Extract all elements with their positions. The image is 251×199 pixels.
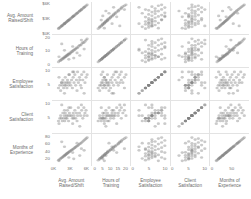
scatter-point	[99, 120, 102, 123]
scatter-point	[57, 159, 60, 162]
scatter-point	[75, 120, 78, 123]
splom-cell-employee_satisfaction-vs-employee_satisfaction[interactable]	[131, 68, 170, 100]
scatter-point	[63, 49, 66, 52]
scatter-point	[190, 57, 193, 60]
splom-cell-months_of_experience-vs-avg_amount_raised_shift[interactable]	[52, 134, 91, 166]
scatter-point	[119, 71, 122, 74]
splom-cell-months_of_experience-vs-employee_satisfaction[interactable]	[131, 134, 170, 166]
splom-cell-hours_of_training-vs-months_of_experience[interactable]	[210, 35, 249, 67]
scatter-point	[184, 87, 187, 90]
splom-cell-avg_amount_raised_shift-vs-client_satisfaction[interactable]	[171, 2, 210, 34]
scatter-point	[234, 106, 237, 109]
scatter-point	[217, 117, 220, 120]
scatter-point	[112, 73, 115, 76]
splom-cell-client_satisfaction-vs-months_of_experience[interactable]	[210, 101, 249, 133]
x-tick-label: 5	[187, 167, 189, 171]
scatter-point	[150, 5, 153, 8]
scatter-point	[144, 8, 147, 11]
splom-cell-avg_amount_raised_shift-vs-hours_of_training[interactable]	[92, 2, 131, 34]
x-tick-label: 0	[93, 167, 95, 171]
splom-cell-hours_of_training-vs-hours_of_training[interactable]	[92, 35, 131, 67]
column-label-line: Raised/Shift	[52, 183, 91, 188]
scatter-point	[138, 22, 141, 25]
scatter-point	[228, 114, 231, 117]
row-label-line: Satisfaction	[0, 117, 33, 122]
scatter-point	[154, 152, 157, 155]
scatter-point	[72, 71, 75, 74]
scatter-point	[237, 109, 240, 112]
scatter-point	[187, 152, 190, 155]
scatter-point	[160, 146, 163, 149]
scatter-point	[187, 140, 190, 143]
scatter-point	[180, 71, 183, 74]
scatter-point	[101, 71, 104, 74]
scatter-point	[154, 7, 157, 10]
row-label-hours_of_training: Hours ofTraining	[0, 46, 33, 57]
splom-cell-employee_satisfaction-vs-client_satisfaction[interactable]	[171, 68, 210, 100]
scatter-point	[190, 149, 193, 152]
scatter-point	[217, 157, 220, 160]
scatter-point	[228, 149, 231, 152]
splom-cell-employee_satisfaction-vs-months_of_experience[interactable]	[210, 68, 249, 100]
scatter-point	[157, 55, 160, 58]
scatter-point	[74, 84, 77, 87]
scatter-point	[105, 112, 108, 115]
scatter-point	[224, 109, 227, 112]
splom-cell-client_satisfaction-vs-avg_amount_raised_shift[interactable]	[52, 101, 91, 133]
scatter-point	[228, 48, 231, 51]
scatter-point	[104, 125, 107, 128]
splom-cell-employee_satisfaction-vs-avg_amount_raised_shift[interactable]	[52, 68, 91, 100]
row-label-months_of_experience: Months ofExperience	[0, 145, 33, 156]
scatter-point	[225, 122, 228, 125]
scatter-point	[124, 4, 127, 7]
scatter-point	[180, 16, 183, 19]
scatter-point	[82, 71, 85, 74]
scatter-point	[215, 122, 218, 125]
scatter-point	[217, 57, 220, 60]
scatter-point	[60, 104, 63, 107]
scatter-point	[190, 44, 193, 47]
scatter-point	[144, 54, 147, 57]
scatter-point	[104, 109, 107, 112]
scatter-point	[224, 87, 227, 90]
scatter-point	[83, 149, 86, 152]
splom-cell-hours_of_training-vs-avg_amount_raised_shift[interactable]	[52, 35, 91, 67]
splom-cell-avg_amount_raised_shift-vs-avg_amount_raised_shift[interactable]	[52, 2, 91, 34]
scatter-point	[101, 57, 104, 60]
splom-cell-hours_of_training-vs-employee_satisfaction[interactable]	[131, 35, 170, 67]
y-tick-label: 60	[45, 142, 50, 146]
scatter-point	[65, 87, 68, 90]
splom-cell-client_satisfaction-vs-client_satisfaction[interactable]	[171, 101, 210, 133]
row-label-client_satisfaction: ClientSatisfaction	[0, 112, 33, 123]
scatter-point	[160, 156, 163, 159]
splom-cell-avg_amount_raised_shift-vs-months_of_experience[interactable]	[210, 2, 249, 34]
scatter-point	[193, 73, 196, 76]
scatter-point	[67, 156, 70, 159]
splom-cell-months_of_experience-vs-months_of_experience[interactable]	[210, 134, 249, 166]
splom-cell-months_of_experience-vs-client_satisfaction[interactable]	[171, 134, 210, 166]
scatter-point	[75, 52, 78, 55]
scatter-point	[197, 76, 200, 79]
scatter-point	[144, 27, 147, 30]
splom-cell-avg_amount_raised_shift-vs-employee_satisfaction[interactable]	[131, 2, 170, 34]
splom-cell-months_of_experience-vs-hours_of_training[interactable]	[92, 134, 131, 166]
scatter-point	[232, 117, 235, 120]
splom-cell-client_satisfaction-vs-employee_satisfaction[interactable]	[131, 101, 170, 133]
splom-cell-client_satisfaction-vs-hours_of_training[interactable]	[92, 101, 131, 133]
splom-cell-employee_satisfaction-vs-hours_of_training[interactable]	[92, 68, 131, 100]
scatter-point	[193, 55, 196, 58]
y-tick-label: 40	[45, 150, 50, 154]
scatter-point	[157, 112, 160, 115]
scatter-point	[243, 37, 246, 40]
scatter-point	[144, 16, 147, 19]
splom-cell-hours_of_training-vs-client_satisfaction[interactable]	[171, 35, 210, 67]
x-tick-label: 0	[131, 167, 133, 171]
scatter-point	[154, 24, 157, 27]
scatter-point	[197, 79, 200, 82]
scatter-point	[104, 154, 107, 157]
scatter-point	[187, 81, 190, 84]
scatter-point	[160, 43, 163, 46]
scatter-point	[154, 12, 157, 15]
scatter-point	[80, 104, 83, 107]
scatter-point	[118, 81, 121, 84]
